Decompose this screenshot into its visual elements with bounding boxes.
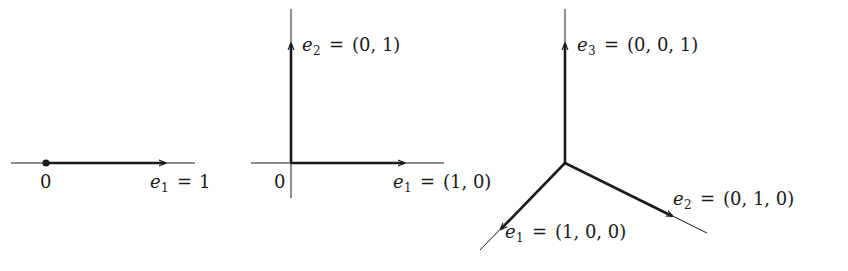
- origin-label: 0: [40, 171, 51, 192]
- svg-text:1: 1: [199, 171, 210, 192]
- svg-text:=: =: [177, 171, 192, 192]
- svg-text:e: e: [505, 221, 516, 242]
- panel-2d: 0 e 1 = (1, 0) e 2 = (0, 1): [251, 9, 491, 198]
- e3-label: e 3 = (0, 0, 1): [577, 34, 698, 58]
- svg-text:1: 1: [516, 231, 524, 245]
- basis-vectors-diagram: 0 e 1 = 1 0 e 1 = (1, 0) e 2 = (0, 1): [0, 0, 848, 271]
- e1-label: e 1 = (1, 0): [393, 171, 491, 195]
- e1-vector-arrow: [501, 163, 565, 229]
- svg-text:1: 1: [404, 181, 412, 195]
- svg-text:=: =: [420, 171, 435, 192]
- panel-1d: 0 e 1 = 1: [11, 159, 210, 195]
- svg-text:=: =: [329, 34, 344, 55]
- svg-text:e: e: [393, 171, 404, 192]
- svg-text:e: e: [577, 34, 588, 55]
- svg-text:=: =: [700, 188, 715, 209]
- svg-text:3: 3: [588, 44, 596, 58]
- e1-label: e 1 = (1, 0, 0): [505, 221, 626, 245]
- e2-label: e 2 = (0, 1): [302, 34, 400, 58]
- origin-label: 0: [274, 171, 285, 192]
- svg-text:2: 2: [313, 44, 321, 58]
- svg-text:e: e: [302, 34, 313, 55]
- svg-text:2: 2: [684, 198, 692, 212]
- svg-text:(1, 0): (1, 0): [443, 171, 491, 192]
- svg-text:=: =: [604, 34, 619, 55]
- origin-dot: [42, 159, 49, 166]
- svg-text:(1, 0, 0): (1, 0, 0): [555, 221, 626, 242]
- svg-text:e: e: [150, 171, 161, 192]
- panel-3d: e 3 = (0, 0, 1) e 2 = (0, 1, 0) e 1 = (1…: [480, 9, 794, 250]
- e2-label: e 2 = (0, 1, 0): [673, 188, 794, 212]
- svg-text:(0, 0, 1): (0, 0, 1): [627, 34, 698, 55]
- svg-text:=: =: [532, 221, 547, 242]
- svg-text:1: 1: [161, 181, 169, 195]
- e1-label: e 1 = 1: [150, 171, 210, 195]
- svg-text:e: e: [673, 188, 684, 209]
- e2-vector-arrow: [565, 163, 672, 216]
- svg-text:(0, 1): (0, 1): [352, 34, 400, 55]
- svg-text:(0, 1, 0): (0, 1, 0): [723, 188, 794, 209]
